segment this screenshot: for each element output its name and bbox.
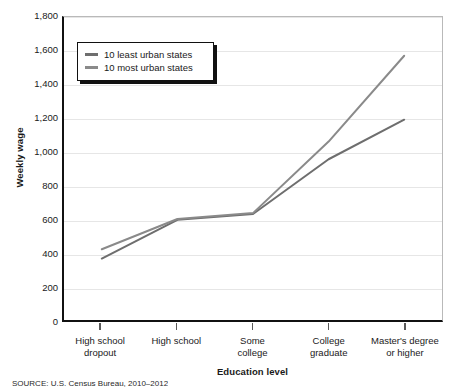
x-axis-title: Education level <box>62 366 443 377</box>
legend-line-swatch-icon <box>85 66 98 68</box>
legend-item: 10 most urban states <box>85 61 206 74</box>
y-axis-tick-label: 1,000 <box>26 147 58 157</box>
chart-legend: 10 least urban states 10 most urban stat… <box>77 42 214 81</box>
y-axis-tick-label: 800 <box>26 181 58 191</box>
series-line <box>102 120 404 259</box>
legend-line-swatch-icon <box>85 53 98 55</box>
x-axis-tick <box>404 323 406 330</box>
x-axis-tick <box>176 323 178 330</box>
y-axis-tick-labels: 02004006008001,0001,2001,4001,6001,800 <box>22 0 58 389</box>
x-axis-tick <box>252 323 254 330</box>
x-axis-tick-label: Master's degreeor higher <box>359 335 451 358</box>
legend-item-label: 10 least urban states <box>104 49 192 60</box>
chart-figure: Weekly wage 02004006008001,0001,2001,400… <box>0 0 459 389</box>
source-note: SOURCE: U.S. Census Bureau, 2010–2012 <box>12 379 168 389</box>
series-line <box>102 56 404 250</box>
x-axis-tick <box>328 323 330 330</box>
y-axis-tick-label: 600 <box>26 215 58 225</box>
y-axis-tick-label: 1,800 <box>26 11 58 21</box>
y-axis-tick-label: 1,200 <box>26 113 58 123</box>
x-axis-tick <box>99 323 101 330</box>
y-axis-tick-label: 400 <box>26 249 58 259</box>
y-axis-tick-label: 0 <box>26 317 58 327</box>
y-axis-tick-label: 1,600 <box>26 45 58 55</box>
y-axis-tick-label: 200 <box>26 283 58 293</box>
legend-item-label: 10 most urban states <box>104 62 193 73</box>
y-axis-tick-label: 1,400 <box>26 79 58 89</box>
legend-item: 10 least urban states <box>85 48 206 61</box>
